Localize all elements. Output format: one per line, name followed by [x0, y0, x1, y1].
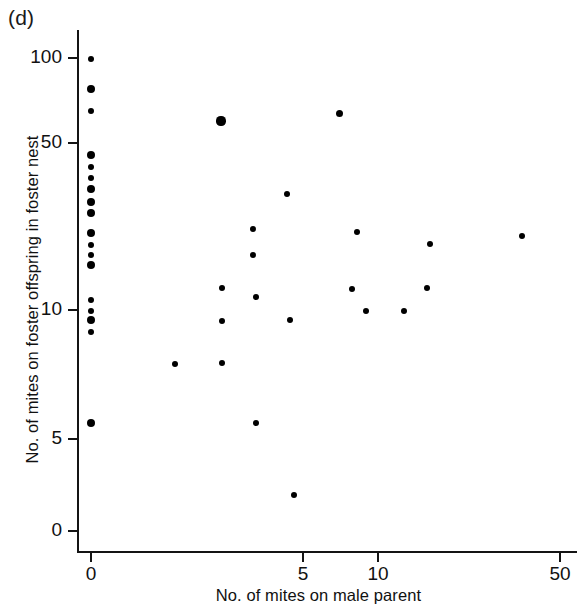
x-axis-label: No. of mites on male parent — [77, 586, 560, 605]
scatter-point — [253, 294, 260, 301]
scatter-point — [88, 175, 95, 182]
scatter-point — [88, 164, 94, 170]
scatter-point — [88, 329, 94, 335]
scatter-point — [216, 116, 225, 125]
scatter-point — [363, 308, 370, 315]
scatter-point — [88, 297, 94, 303]
scatter-point — [88, 308, 95, 315]
scatter-point — [291, 492, 298, 499]
scatter-point — [87, 261, 96, 270]
scatter-point — [88, 242, 95, 249]
scatter-point — [87, 151, 96, 160]
scatter-point — [424, 285, 431, 292]
scatter-point — [284, 191, 291, 198]
scatter-point — [219, 285, 226, 292]
scatter-point — [349, 286, 356, 293]
scatter-point — [354, 229, 361, 236]
scatter-point — [401, 308, 408, 315]
scatter-point — [287, 317, 294, 324]
scatter-point — [88, 108, 94, 114]
scatter-point — [87, 185, 96, 194]
scatter-point — [87, 198, 96, 207]
scatter-point — [87, 209, 96, 218]
scatter-plot-figure: (d) No. of mites on foster offspring in … — [0, 0, 577, 613]
scatter-point — [88, 252, 95, 259]
scatter-point — [88, 56, 94, 62]
scatter-point — [219, 360, 226, 367]
scatter-point — [250, 252, 257, 259]
scatter-point — [87, 316, 95, 324]
scatter-point — [87, 229, 96, 238]
scatter-point — [87, 85, 95, 93]
scatter-point — [336, 110, 343, 117]
scatter-point — [519, 233, 526, 240]
scatter-point — [172, 361, 179, 368]
scatter-point — [253, 420, 260, 427]
scatter-point — [250, 226, 257, 233]
plot-data-area — [0, 0, 577, 613]
scatter-point — [219, 318, 226, 325]
scatter-point — [427, 241, 434, 248]
scatter-point — [87, 419, 96, 428]
